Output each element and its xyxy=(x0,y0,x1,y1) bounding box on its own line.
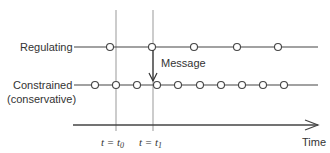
diagram-svg: Message Regulating Constrained (conserva… xyxy=(0,0,330,153)
regulating-event-circle xyxy=(191,44,198,51)
regulating-event-circle xyxy=(275,44,282,51)
regulating-event-circle xyxy=(149,44,156,51)
conservative-label: (conservative) xyxy=(7,93,76,105)
regulating-event-circle xyxy=(107,44,114,51)
constrained-event-circle xyxy=(92,82,99,89)
constrained-event-circle xyxy=(134,82,141,89)
regulating-label: Regulating xyxy=(20,41,73,53)
message-label: Message xyxy=(161,57,206,69)
constrained-event-circle xyxy=(154,82,161,89)
t0-label: t = t0 xyxy=(101,136,124,150)
constrained-event-circle xyxy=(175,82,182,89)
constrained-label: Constrained xyxy=(13,79,72,91)
time-label: Time xyxy=(302,136,326,148)
t1-label: t = t1 xyxy=(139,136,162,150)
constrained-event-circle xyxy=(260,82,267,89)
regulating-event-circle xyxy=(234,44,241,51)
constrained-event-circle xyxy=(197,82,204,89)
constrained-event-circle xyxy=(113,82,120,89)
constrained-event-circle xyxy=(281,82,288,89)
constrained-event-circle xyxy=(218,82,225,89)
time-synchronization-diagram: Message Regulating Constrained (conserva… xyxy=(0,0,330,153)
constrained-event-circle xyxy=(239,82,246,89)
